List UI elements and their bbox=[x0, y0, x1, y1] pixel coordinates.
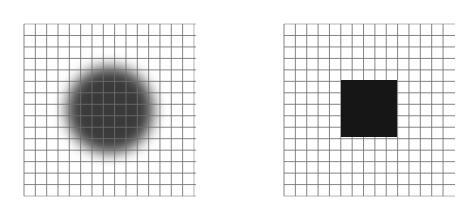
grid-lines-right bbox=[0, 0, 476, 205]
black-square bbox=[341, 80, 397, 137]
